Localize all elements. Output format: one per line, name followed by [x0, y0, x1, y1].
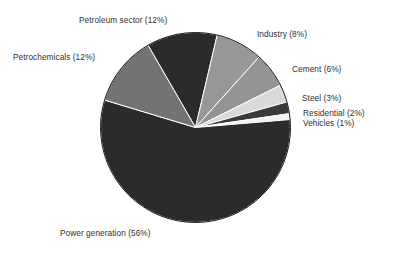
- slice-label-petrochemicals: Petrochemicals (12%): [13, 52, 95, 63]
- slice-label-cement: Cement (6%): [292, 64, 341, 75]
- slice-label-petroleum-sector: Petroleum sector (12%): [79, 15, 167, 26]
- pie-slices-group: Petroleum sector (12%)Industry (8%)Cemen…: [101, 33, 291, 223]
- slice-label-vehicles: Vehicles (1%): [303, 118, 354, 129]
- pie-chart-figure: Petroleum sector (12%)Industry (8%)Cemen…: [0, 0, 400, 253]
- slice-label-steel: Steel (3%): [302, 93, 341, 104]
- slice-label-residential: Residential (2%): [303, 108, 365, 119]
- slice-label-industry: Industry (8%): [257, 29, 307, 40]
- slice-label-power-generation: Power generation (56%): [60, 228, 151, 239]
